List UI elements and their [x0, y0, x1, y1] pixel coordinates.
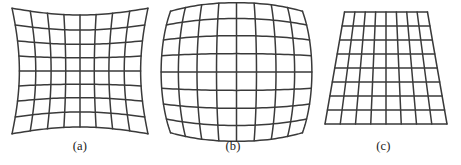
grid-row-line [12, 127, 148, 134]
distortion-grid-b [152, 0, 317, 150]
panel-label-c: (c) [306, 138, 461, 154]
panel-label-b: (b) [152, 138, 314, 154]
grid-canvas-a [0, 0, 165, 150]
distortion-grid-c [306, 0, 461, 150]
grid-lines-a [12, 8, 148, 134]
distortion-panel-b: (b) [152, 0, 314, 165]
grid-canvas-b [152, 0, 317, 150]
distortion-panel-a: (a) [0, 0, 160, 165]
panel-label-a: (a) [0, 138, 160, 154]
grid-row-line [12, 8, 148, 15]
grid-lines-c [325, 12, 447, 124]
grid-col-line [12, 8, 19, 134]
grid-canvas-c [306, 0, 461, 150]
grid-lines-b [161, 3, 312, 142]
grid-col-line [141, 8, 148, 134]
distortion-grid-a [0, 0, 165, 150]
distortion-figure: (a) (b) (c) [0, 0, 461, 165]
distortion-panel-c: (c) [306, 0, 461, 165]
